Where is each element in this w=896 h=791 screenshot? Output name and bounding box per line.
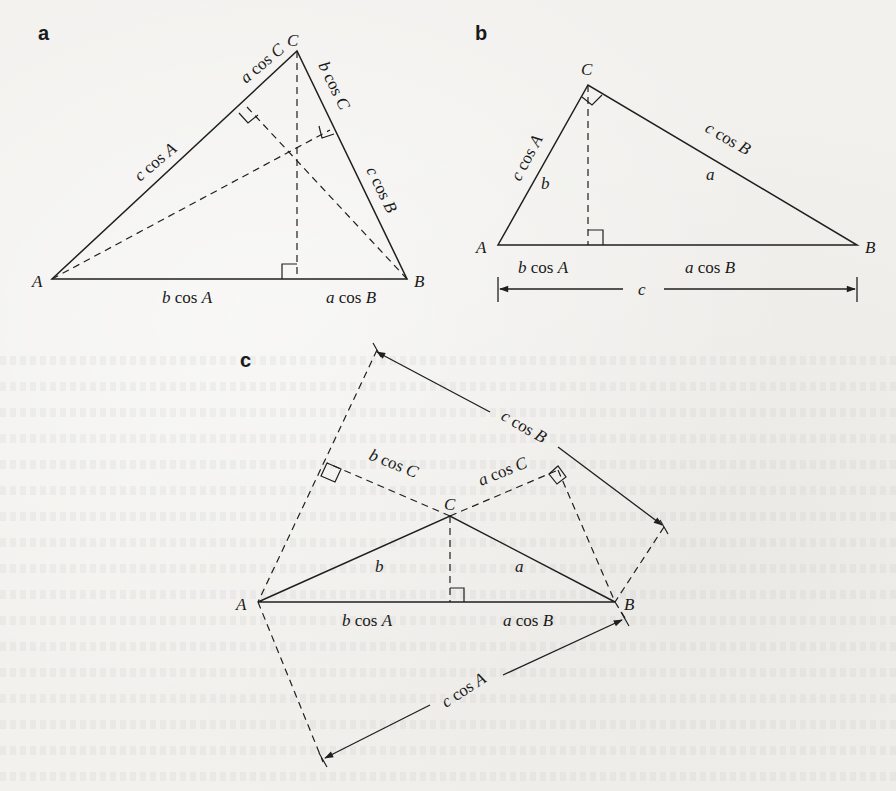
altitude-from-a	[52, 130, 330, 279]
segment-label-c-cos-b: c cos B	[702, 118, 755, 159]
segment-label-c-cos-a: c cos A	[438, 668, 490, 711]
vertex-label-a: A	[475, 238, 487, 257]
right-angle-marker	[319, 126, 334, 138]
right-angle-marker	[321, 463, 341, 482]
figure-canvas: a A B C c cos A a cos C b cos C c cos B …	[0, 0, 896, 791]
segment-label-b-cos-a: b cos A	[342, 611, 393, 630]
dimension-arrow-bottom-left	[325, 705, 430, 758]
panel-label-c: c	[240, 349, 251, 371]
segment-label-c-cos-b: c cos B	[498, 406, 551, 447]
vertex-label-b: B	[414, 272, 425, 291]
vertex-label-b: B	[624, 595, 635, 614]
right-angle-marker	[282, 264, 297, 279]
dimension-arrow-top-left	[377, 352, 490, 412]
right-angle-marker-foot	[588, 230, 603, 245]
right-angle-marker-c	[582, 95, 602, 105]
side-label-b: b	[375, 557, 384, 576]
right-angle-marker-foot	[450, 588, 464, 602]
dimension-label-c: c	[638, 280, 646, 299]
dimension-arrow-top-right	[558, 447, 662, 525]
panel-b: b A B C c cos A b c cos B a b cos A a co…	[475, 22, 876, 302]
projection-to-b	[558, 470, 615, 602]
vertex-label-c: C	[444, 495, 456, 514]
segment-label-b-cos-c: b cos C	[314, 58, 354, 113]
projection-line-left-lower	[258, 602, 323, 762]
side-label-a: a	[515, 557, 524, 576]
vertex-label-b: B	[865, 238, 876, 257]
segment-label-a-cos-b: a cos B	[503, 611, 554, 630]
segment-label-c-cos-a: c cos A	[130, 139, 180, 186]
segment-label-a-cos-c: a cos C	[236, 39, 288, 87]
vertex-label-c: C	[287, 31, 299, 50]
side-label-b: b	[541, 174, 550, 193]
dimension-tick	[621, 612, 629, 626]
segment-label-a-cos-b: a cos B	[685, 258, 736, 277]
panel-c: c c cos B c cos A b cos C a cos C	[235, 343, 668, 767]
projection-line-left-upper	[258, 350, 377, 602]
vertex-label-c: C	[581, 60, 593, 79]
segment-label-b-cos-c: b cos C	[367, 445, 422, 482]
vertex-label-a: A	[31, 272, 43, 291]
triangle-abc	[258, 516, 615, 602]
segment-label-a-cos-b: a cos B	[326, 288, 377, 307]
segment-label-a-cos-c: a cos C	[475, 453, 530, 490]
dimension-tick	[319, 753, 327, 767]
panel-label-b: b	[475, 22, 487, 44]
right-angle-marker	[239, 113, 258, 123]
segment-label-b-cos-a: b cos A	[162, 288, 213, 307]
panel-a: a A B C c cos A a cos C b cos C c cos B …	[31, 22, 425, 307]
segment-label-b-cos-a: b cos A	[518, 258, 569, 277]
segment-label-c-cos-b: c cos B	[362, 163, 401, 216]
triangle-abc	[52, 51, 407, 279]
side-label-a: a	[706, 165, 715, 184]
vertex-label-a: A	[235, 595, 247, 614]
panel-label-a: a	[38, 22, 50, 44]
projection-line-right-upper	[615, 527, 664, 602]
right-triangle-abc	[498, 85, 857, 245]
